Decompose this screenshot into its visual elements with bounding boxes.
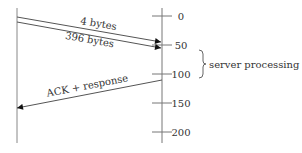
tick-label-0: 0 <box>178 11 184 22</box>
tick-label-150: 150 <box>171 98 190 109</box>
timing-diagram: 0 50 100 150 200 4 bytes 396 bytes ACK +… <box>0 0 302 153</box>
tick-label-50: 50 <box>175 40 188 51</box>
axis-tick-labels: 0 50 100 150 200 <box>171 11 190 138</box>
tick-label-100: 100 <box>171 69 190 80</box>
tick-label-200: 200 <box>171 127 190 138</box>
server-processing-label: server processing <box>209 59 300 70</box>
message-label-4-bytes: 4 bytes <box>80 15 118 32</box>
server-processing-brace-icon <box>199 50 206 78</box>
